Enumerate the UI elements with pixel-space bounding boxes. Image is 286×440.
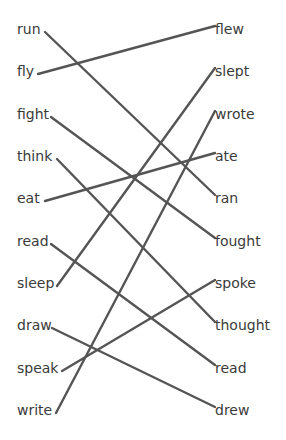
right-word-ate: ate bbox=[215, 148, 238, 164]
left-word-read: read bbox=[17, 233, 49, 249]
word-matching-diagram: runflyfightthinkeatreadsleepdrawspeakwri… bbox=[0, 0, 286, 440]
right-word-thought: thought bbox=[215, 317, 270, 333]
connection-line-run-ran bbox=[45, 32, 215, 195]
right-word-wrote: wrote bbox=[215, 106, 255, 122]
left-word-sleep: sleep bbox=[17, 275, 54, 291]
connection-line-draw-drew bbox=[52, 328, 215, 407]
right-word-drew: drew bbox=[215, 402, 249, 418]
left-word-write: write bbox=[17, 402, 52, 418]
connection-line-sleep-slept bbox=[57, 68, 215, 286]
left-word-run: run bbox=[17, 21, 41, 37]
right-word-slept: slept bbox=[215, 63, 249, 79]
left-word-think: think bbox=[17, 148, 52, 164]
left-word-fly: fly bbox=[17, 63, 34, 79]
right-word-spoke: spoke bbox=[215, 275, 256, 291]
left-word-fight: fight bbox=[17, 106, 49, 122]
right-word-ran: ran bbox=[215, 190, 238, 206]
right-word-fought: fought bbox=[215, 233, 261, 249]
left-word-eat: eat bbox=[17, 190, 40, 206]
left-word-draw: draw bbox=[17, 317, 52, 333]
connection-line-think-thought bbox=[57, 159, 215, 322]
right-word-flew: flew bbox=[215, 21, 244, 37]
left-word-speak: speak bbox=[17, 360, 58, 376]
right-word-read: read bbox=[215, 360, 247, 376]
